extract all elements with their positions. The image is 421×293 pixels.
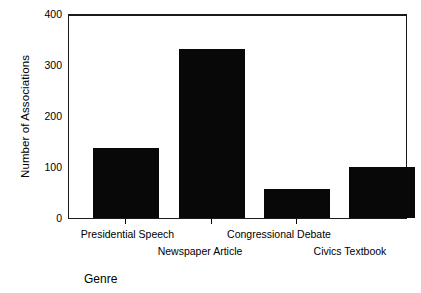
bar-newspaper-article bbox=[179, 49, 245, 218]
x-label-civics-textbook: Civics Textbook bbox=[300, 245, 400, 257]
y-tick-0: 0 bbox=[30, 213, 62, 223]
x-label-newspaper-article: Newspaper Article bbox=[146, 245, 254, 257]
x-tick-mark-3 bbox=[296, 219, 297, 224]
bar-civics-textbook bbox=[349, 167, 415, 218]
y-tick-100: 100 bbox=[30, 162, 62, 172]
plot-area bbox=[68, 14, 407, 219]
y-tick-200: 200 bbox=[30, 111, 62, 121]
bar-series bbox=[69, 16, 406, 218]
x-axis-title: Genre bbox=[84, 272, 117, 286]
y-axis-tick-labels: 400 300 200 100 0 bbox=[30, 0, 62, 293]
y-tick-300: 300 bbox=[30, 60, 62, 70]
x-tick-mark-1 bbox=[125, 219, 126, 224]
x-tick-mark-2 bbox=[211, 219, 212, 224]
bar-congressional-debate bbox=[264, 189, 330, 218]
x-label-congressional-debate: Congressional Debate bbox=[215, 228, 343, 240]
bar-presidential-speech bbox=[93, 148, 159, 218]
y-tick-400: 400 bbox=[30, 9, 62, 19]
bar-chart-figure: Number of Associations 400 300 200 100 0… bbox=[0, 0, 421, 293]
x-label-presidential-speech: Presidential Speech bbox=[70, 228, 185, 240]
